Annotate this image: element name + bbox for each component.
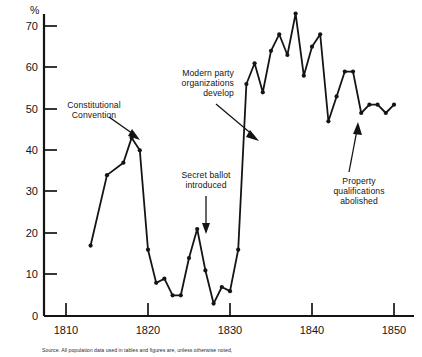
x-tick-label-1810: 1810 (54, 324, 78, 336)
data-point (335, 94, 339, 98)
annotation-constitutional-convention: Constitutional Convention (52, 100, 136, 120)
x-tick-label-1820: 1820 (136, 324, 160, 336)
data-point (302, 74, 306, 78)
data-point (351, 69, 355, 73)
data-point (89, 243, 93, 247)
data-point (294, 11, 298, 15)
data-point (146, 248, 150, 252)
x-tick-label-1840: 1840 (300, 324, 324, 336)
series-line-voter-turnout (91, 14, 394, 304)
x-tick-label-1850: 1850 (382, 324, 406, 336)
data-point (318, 32, 322, 36)
data-point (343, 69, 347, 73)
data-point (195, 227, 199, 231)
x-axis-ticks (66, 303, 394, 316)
annotation-modern-party-organizations: Modern party organizations develop (158, 68, 234, 99)
data-point (367, 103, 371, 107)
y-tick-label-0: 0 (32, 310, 38, 322)
source-note: Source. All population data used in tabl… (42, 347, 420, 353)
y-axis-unit-label: % (30, 4, 39, 16)
data-point (277, 32, 281, 36)
y-tick-label-20: 20 (26, 227, 38, 239)
annotation-arrows (109, 104, 362, 234)
annotation-property-qualifications-abolished: Property qualifications abolished (320, 176, 398, 207)
data-point (359, 111, 363, 115)
data-point (285, 53, 289, 57)
arrow-property-qualifications (349, 122, 362, 172)
x-tick-label-1830: 1830 (218, 324, 242, 336)
data-point (203, 268, 207, 272)
arrow-constitutional-convention (109, 117, 140, 140)
data-point (228, 289, 232, 293)
data-point (392, 103, 396, 107)
data-point (121, 161, 125, 165)
data-point (187, 256, 191, 260)
data-point (384, 111, 388, 115)
data-point (162, 277, 166, 281)
data-point (376, 103, 380, 107)
arrow-modern-party (216, 104, 259, 141)
data-point (105, 173, 109, 177)
y-tick-label-50: 50 (26, 103, 38, 115)
data-point (326, 119, 330, 123)
data-point (171, 293, 175, 297)
data-point (244, 82, 248, 86)
annotation-secret-ballot-introduced: Secret ballot introduced (168, 170, 244, 190)
figure-container: 70 60 50 40 30 20 10 0 % 1810 1820 1830 … (0, 0, 422, 357)
data-point (310, 45, 314, 49)
data-point (179, 293, 183, 297)
data-point (220, 285, 224, 289)
data-point (236, 248, 240, 252)
data-point (261, 90, 265, 94)
y-axis-ticks (44, 26, 57, 316)
data-point (269, 49, 273, 53)
data-point (138, 148, 142, 152)
y-tick-label-60: 60 (26, 61, 38, 73)
data-point (253, 61, 257, 65)
y-tick-label-10: 10 (26, 268, 38, 280)
data-point (154, 281, 158, 285)
y-tick-label-40: 40 (26, 144, 38, 156)
y-tick-label-30: 30 (26, 185, 38, 197)
data-point (212, 301, 216, 305)
arrow-secret-ballot (202, 196, 210, 234)
y-tick-label-70: 70 (26, 20, 38, 32)
